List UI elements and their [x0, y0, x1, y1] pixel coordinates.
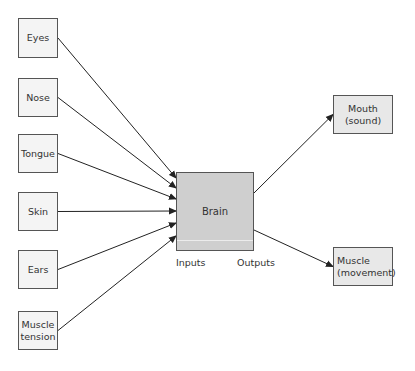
brain-node: Brain	[176, 172, 254, 251]
input-node-skin: Skin	[18, 192, 58, 231]
input-label: Ears	[28, 264, 49, 276]
outputs-label: Outputs	[237, 257, 275, 268]
input-node-nose: Nose	[18, 78, 58, 117]
input-node-ears: Ears	[18, 250, 58, 289]
arrow-skin-to-brain	[58, 211, 176, 212]
arrow-nose-to-brain	[58, 98, 176, 189]
arrow-ears-to-brain	[58, 223, 176, 270]
arrow-eyes-to-brain	[58, 38, 176, 178]
input-label: Nose	[26, 92, 50, 104]
output-label: Muscle(movement)	[337, 255, 396, 279]
input-node-eyes: Eyes	[18, 18, 58, 58]
arrow-brain-to-mouth-sound	[254, 115, 333, 194]
output-node-muscle-movement: Muscle(movement)	[333, 247, 393, 286]
brain-label: Brain	[202, 206, 228, 218]
inputs-label: Inputs	[176, 257, 206, 268]
output-label: Mouth(sound)	[345, 103, 381, 127]
input-node-tongue: Tongue	[18, 134, 58, 173]
output-node-mouth-sound: Mouth(sound)	[333, 95, 393, 134]
brain-stripe	[177, 240, 253, 241]
input-node-muscle-tension: Muscletension	[18, 311, 58, 350]
arrow-tongue-to-brain	[58, 154, 176, 200]
input-label: Eyes	[27, 32, 49, 44]
input-label: Skin	[28, 206, 48, 218]
input-label: Tongue	[21, 148, 55, 160]
arrow-muscle-tension-to-brain	[58, 236, 176, 331]
input-label: Muscletension	[20, 319, 55, 343]
